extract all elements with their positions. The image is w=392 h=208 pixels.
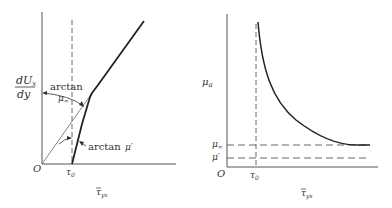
arrowhead-small bbox=[67, 136, 72, 140]
left-tau0-label: τ0 bbox=[66, 167, 75, 178]
right-x-label: τyx bbox=[301, 188, 313, 200]
left-origin-label: O bbox=[33, 163, 41, 174]
right-panel: μa μ∞ μ′ O τ0 τyx bbox=[202, 14, 378, 200]
right-y-label: μa bbox=[202, 76, 213, 89]
arctan-mu-prime-word: arctan bbox=[88, 141, 121, 152]
apparent-viscosity-curve bbox=[258, 22, 370, 145]
arctan-mu-prime-symbol: μ′ bbox=[125, 142, 133, 152]
arrowhead-prime bbox=[79, 141, 84, 146]
arrowhead-left bbox=[42, 91, 47, 95]
diagram-canvas: dUx dy arctan μ∞ arctan μ′ O τ0 τyx μa μ… bbox=[0, 0, 392, 208]
arrowhead-right bbox=[79, 101, 84, 107]
left-y-label-numerator: dUx bbox=[16, 74, 36, 88]
right-tau0-label: τ0 bbox=[250, 170, 259, 181]
left-x-label: τyx bbox=[96, 187, 108, 199]
left-y-label-denominator: dy bbox=[17, 88, 31, 101]
right-origin-label: O bbox=[217, 168, 225, 179]
mu-inf-label: μ∞ bbox=[212, 139, 223, 150]
arctan-mu-inf-symbol: μ∞ bbox=[58, 93, 69, 104]
arctan-mu-inf-word: arctan bbox=[50, 81, 83, 92]
left-panel: dUx dy arctan μ∞ arctan μ′ O τ0 τyx bbox=[15, 12, 176, 199]
mu-prime-label: μ′ bbox=[212, 152, 220, 162]
